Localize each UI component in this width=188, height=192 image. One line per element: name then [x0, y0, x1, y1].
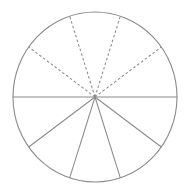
lower-radius-3 [95, 97, 120, 178]
upper-radius-2 [95, 16, 120, 97]
lower-radius-2 [70, 97, 95, 178]
upper-radius-4 [29, 47, 95, 97]
sector-diagram-svg [0, 0, 188, 192]
upper-radius-1 [95, 47, 161, 97]
upper-radius-3 [70, 16, 95, 97]
circle-sector-figure [0, 0, 188, 192]
lower-radius-1 [29, 97, 95, 147]
lower-radius-4 [95, 97, 161, 147]
